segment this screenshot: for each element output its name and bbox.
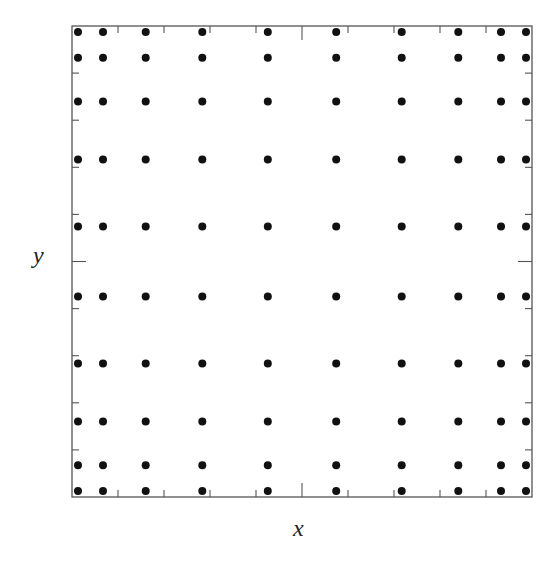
data-point: [99, 487, 107, 495]
data-point: [99, 28, 107, 36]
data-point: [398, 487, 406, 495]
y-axis-label: y: [33, 242, 44, 269]
data-point: [142, 360, 150, 368]
data-point: [497, 54, 505, 62]
data-point: [198, 418, 206, 426]
data-point: [497, 155, 505, 163]
data-point: [398, 54, 406, 62]
plot-frame: [72, 26, 532, 497]
data-point: [198, 155, 206, 163]
data-point: [74, 98, 82, 106]
data-point: [454, 360, 462, 368]
data-point: [497, 461, 505, 469]
data-point: [497, 487, 505, 495]
x-axis-label: x: [293, 515, 304, 542]
data-point: [522, 487, 530, 495]
data-point: [332, 461, 340, 469]
data-point: [522, 28, 530, 36]
data-point: [497, 28, 505, 36]
data-point: [522, 222, 530, 230]
data-point: [497, 360, 505, 368]
data-point: [99, 418, 107, 426]
data-point: [398, 461, 406, 469]
data-point: [454, 418, 462, 426]
data-point: [497, 293, 505, 301]
data-point: [264, 222, 272, 230]
data-point: [142, 293, 150, 301]
data-point: [398, 222, 406, 230]
data-point: [142, 418, 150, 426]
data-point: [497, 222, 505, 230]
data-point: [142, 222, 150, 230]
data-point: [74, 155, 82, 163]
data-point: [74, 461, 82, 469]
data-point: [74, 487, 82, 495]
data-point: [398, 155, 406, 163]
data-point: [99, 461, 107, 469]
data-point: [198, 28, 206, 36]
data-point: [332, 222, 340, 230]
data-point: [264, 461, 272, 469]
data-point: [198, 360, 206, 368]
data-point: [454, 461, 462, 469]
data-point: [332, 98, 340, 106]
data-point: [332, 487, 340, 495]
data-point: [398, 28, 406, 36]
data-point: [142, 54, 150, 62]
data-point: [264, 487, 272, 495]
data-point: [522, 360, 530, 368]
data-point: [332, 293, 340, 301]
data-point: [332, 155, 340, 163]
data-point: [497, 98, 505, 106]
data-point: [142, 28, 150, 36]
data-point: [74, 54, 82, 62]
data-point: [522, 98, 530, 106]
data-point: [332, 418, 340, 426]
data-point: [522, 293, 530, 301]
data-point: [522, 461, 530, 469]
data-point: [264, 98, 272, 106]
data-point: [99, 293, 107, 301]
data-point: [198, 461, 206, 469]
data-point: [142, 487, 150, 495]
data-point: [398, 418, 406, 426]
data-point: [198, 54, 206, 62]
data-point: [198, 222, 206, 230]
data-point: [454, 293, 462, 301]
data-point: [142, 461, 150, 469]
data-point: [398, 293, 406, 301]
data-points: [74, 28, 530, 495]
data-point: [99, 360, 107, 368]
data-point: [74, 418, 82, 426]
data-point: [454, 222, 462, 230]
data-point: [332, 54, 340, 62]
data-point: [264, 54, 272, 62]
data-point: [454, 98, 462, 106]
data-point: [198, 98, 206, 106]
data-point: [198, 293, 206, 301]
data-point: [454, 487, 462, 495]
data-point: [454, 28, 462, 36]
data-point: [99, 222, 107, 230]
data-point: [264, 155, 272, 163]
data-point: [264, 293, 272, 301]
data-point: [264, 28, 272, 36]
data-point: [99, 98, 107, 106]
data-point: [398, 360, 406, 368]
scatter-plot: [0, 0, 558, 562]
data-point: [522, 418, 530, 426]
data-point: [497, 418, 505, 426]
data-point: [522, 155, 530, 163]
data-point: [99, 54, 107, 62]
data-point: [99, 155, 107, 163]
data-point: [454, 54, 462, 62]
data-point: [74, 360, 82, 368]
data-point: [198, 487, 206, 495]
data-point: [74, 28, 82, 36]
data-point: [74, 222, 82, 230]
data-point: [332, 360, 340, 368]
data-point: [454, 155, 462, 163]
data-point: [74, 293, 82, 301]
data-point: [264, 418, 272, 426]
data-point: [264, 360, 272, 368]
